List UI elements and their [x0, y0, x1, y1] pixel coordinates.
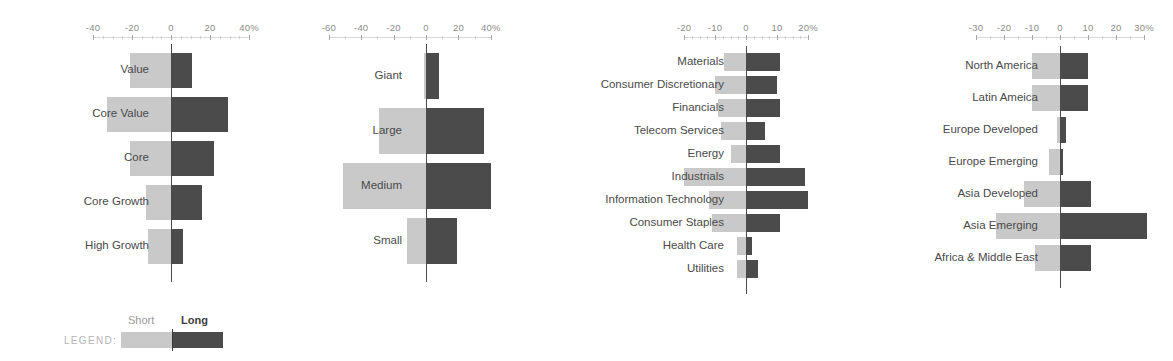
axis-major-tick	[361, 35, 362, 40]
axis-minor-tick	[785, 36, 786, 39]
axis-minor-tick	[191, 36, 192, 39]
axis-minor-tick	[239, 36, 240, 39]
category-label: Information Technology	[605, 194, 724, 206]
chart-row: Consumer Discretionary	[510, 73, 850, 96]
chart-row: Consumer Staples	[510, 211, 850, 234]
axis-minor-tick	[1102, 36, 1103, 39]
axis-major-tick	[808, 35, 809, 40]
axis-major-tick	[1144, 35, 1145, 40]
axis-minor-tick	[769, 36, 770, 39]
x-axis-style-box: -40-2002040%	[0, 22, 290, 44]
bar-long	[746, 99, 780, 117]
chart-row: North America	[850, 50, 1173, 82]
bar-long	[426, 218, 457, 264]
axis-minor-tick	[762, 36, 763, 39]
chart-row: Asia Developed	[850, 178, 1173, 210]
axis-tick-label: 10	[1083, 22, 1094, 33]
axis-tick-label: 10	[772, 22, 783, 33]
axis-minor-tick	[122, 36, 123, 39]
category-label: Health Care	[663, 240, 724, 252]
axis-minor-tick	[700, 36, 701, 39]
axis-major-tick	[1060, 35, 1061, 40]
axis-major-tick	[491, 35, 492, 40]
bar-long	[746, 214, 780, 232]
axis-tick-label: -30	[969, 22, 983, 33]
chart-row: Utilities	[510, 257, 850, 280]
axis-minor-tick	[707, 36, 708, 39]
axis-minor-tick	[738, 36, 739, 39]
bar-long	[1060, 181, 1091, 207]
chart-row: Europe Emerging	[850, 146, 1173, 178]
category-label: Energy	[688, 148, 724, 160]
chart-row: Value	[0, 48, 290, 92]
axis-minor-tick	[990, 36, 991, 39]
x-axis-market-cap: -60-40-2002040%	[290, 22, 510, 44]
axis-tick-label: 0	[1057, 22, 1062, 33]
bar-long	[1060, 245, 1091, 271]
category-label: Small	[373, 235, 402, 247]
chart-panel-sector: -20-1001020%MaterialsConsumer Discretion…	[510, 0, 850, 300]
legend-swatch-short	[121, 332, 172, 348]
axis-tick-label: -10	[708, 22, 722, 33]
axis-major-tick	[426, 35, 427, 40]
bar-long	[746, 145, 780, 163]
axis-major-tick	[93, 35, 94, 40]
bar-short	[721, 122, 746, 140]
bar-short	[148, 229, 171, 264]
plot-area-style-box: ValueCore ValueCoreCore GrowthHigh Growt…	[0, 48, 290, 268]
category-label: Consumer Discretionary	[601, 79, 724, 91]
axis-minor-tick	[345, 36, 346, 39]
axis-tick-label: -40	[354, 22, 368, 33]
category-label: Telecom Services	[634, 125, 724, 137]
bar-short	[407, 218, 426, 264]
bar-short	[737, 237, 746, 255]
axis-minor-tick	[181, 36, 182, 39]
axis-tick-label: -20	[997, 22, 1011, 33]
category-label: North America	[965, 60, 1038, 72]
bar-long	[171, 185, 202, 220]
x-axis-sector: -20-1001020%	[510, 22, 850, 44]
bar-long	[171, 229, 183, 264]
bar-short	[1049, 149, 1060, 175]
chart-row: Core Growth	[0, 180, 290, 224]
bar-long	[171, 141, 214, 176]
chart-row: High Growth	[0, 224, 290, 268]
axis-minor-tick	[161, 36, 162, 39]
axis-tick-label: -60	[322, 22, 336, 33]
axis-major-tick	[1116, 35, 1117, 40]
axis-minor-tick	[800, 36, 801, 39]
chart-row: Core Value	[0, 92, 290, 136]
axis-minor-tick	[723, 36, 724, 39]
category-label: Core Growth	[84, 196, 149, 208]
axis-minor-tick	[103, 36, 104, 39]
axis-minor-tick	[1130, 36, 1131, 39]
axis-tick-label: 40%	[239, 22, 259, 33]
chart-row: Energy	[510, 142, 850, 165]
legend-title: LEGEND:	[64, 335, 117, 346]
chart-row: Telecom Services	[510, 119, 850, 142]
chart-row: Africa & Middle East	[850, 242, 1173, 274]
axis-minor-tick	[754, 36, 755, 39]
chart-row: Giant	[290, 48, 510, 103]
axis-minor-tick	[200, 36, 201, 39]
bar-long	[426, 163, 491, 209]
axis-minor-tick	[410, 36, 411, 39]
bar-long	[426, 53, 439, 99]
axis-major-tick	[210, 35, 211, 40]
category-label: Value	[120, 64, 149, 76]
chart-row: Information Technology	[510, 188, 850, 211]
bar-long	[1060, 85, 1088, 111]
bar-long	[746, 168, 805, 186]
axis-minor-tick	[731, 36, 732, 39]
axis-minor-tick	[1046, 36, 1047, 39]
bar-long	[746, 53, 780, 71]
axis-minor-tick	[142, 36, 143, 39]
chart-row: Asia Emerging	[850, 210, 1173, 242]
bar-long	[746, 191, 808, 209]
bar-long	[746, 122, 765, 140]
axis-major-tick	[1004, 35, 1005, 40]
axis-major-tick	[249, 35, 250, 40]
axis-minor-tick	[220, 36, 221, 39]
chart-row: Industrials	[510, 165, 850, 188]
axis-tick-label: -10	[1025, 22, 1039, 33]
